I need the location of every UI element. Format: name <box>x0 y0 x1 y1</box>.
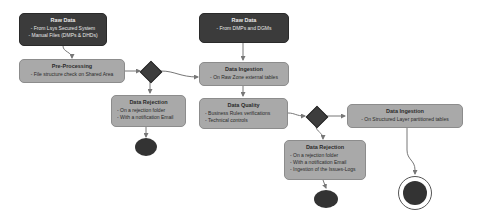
node-line: - On Structured Layer partitioned tables <box>353 116 457 123</box>
node-line: - Business Rules verifications <box>205 110 282 117</box>
node-line: - From Lsys Secured System <box>25 25 101 32</box>
node-raw-data-sources[interactable]: Raw Data - From Lsys Secured System - Ma… <box>19 13 107 46</box>
edge-decision1-ingestion1 <box>161 71 198 77</box>
node-line: - Technical controls <box>205 117 282 124</box>
edge-quality-decision2 <box>288 113 305 116</box>
node-data-quality[interactable]: Data Quality - Business Rules verificati… <box>199 98 288 129</box>
node-line: - Manual Files (DMPs & DHDs) <box>25 32 101 39</box>
end-rejection-2-node <box>314 190 338 208</box>
node-data-rejection-2[interactable]: Data Rejection - On a rejection folder -… <box>284 140 366 180</box>
final-end-dot <box>403 181 427 205</box>
flow-diagram: Raw Data - From Lsys Secured System - Ma… <box>0 0 479 222</box>
node-line: - On Raw Zone external tables <box>205 74 283 81</box>
edge-raw1-preproc <box>63 46 72 58</box>
node-pre-processing[interactable]: Pre-Processing - File structure check on… <box>19 59 125 83</box>
node-data-rejection-1[interactable]: Data Rejection - On a rejection folder -… <box>111 95 186 127</box>
node-title: Pre-Processing <box>25 63 119 70</box>
edge-rejection2-end <box>323 180 326 188</box>
node-line: - On a rejection folder <box>290 152 360 159</box>
node-raw-data-dmps[interactable]: Raw Data - From DMPs and DGMs <box>199 13 289 43</box>
node-line: - File structure check on Shared Area <box>25 71 119 78</box>
node-title: Raw Data <box>25 17 101 24</box>
node-title: Data Quality <box>205 102 282 109</box>
node-title: Data Ingestion <box>353 108 457 115</box>
node-line: - With a notification Email <box>117 114 180 121</box>
node-data-ingestion-raw[interactable]: Data Ingestion - On Raw Zone external ta… <box>199 62 289 86</box>
node-title: Data Rejection <box>117 99 180 106</box>
node-line: - On a rejection folder <box>117 107 180 114</box>
node-line: - Ingestion of the Issues-Logs <box>290 166 360 173</box>
node-data-ingestion-structured[interactable]: Data Ingestion - On Structured Layer par… <box>347 104 463 128</box>
node-title: Raw Data <box>205 17 283 24</box>
node-title: Data Ingestion <box>205 66 283 73</box>
node-title: Data Rejection <box>290 144 360 151</box>
end-rejection-1-node <box>135 138 157 156</box>
node-line: - From DMPs and DGMs <box>205 25 283 32</box>
edge-ingestion2-final <box>407 128 415 174</box>
node-line: - With a notification Email <box>290 159 360 166</box>
